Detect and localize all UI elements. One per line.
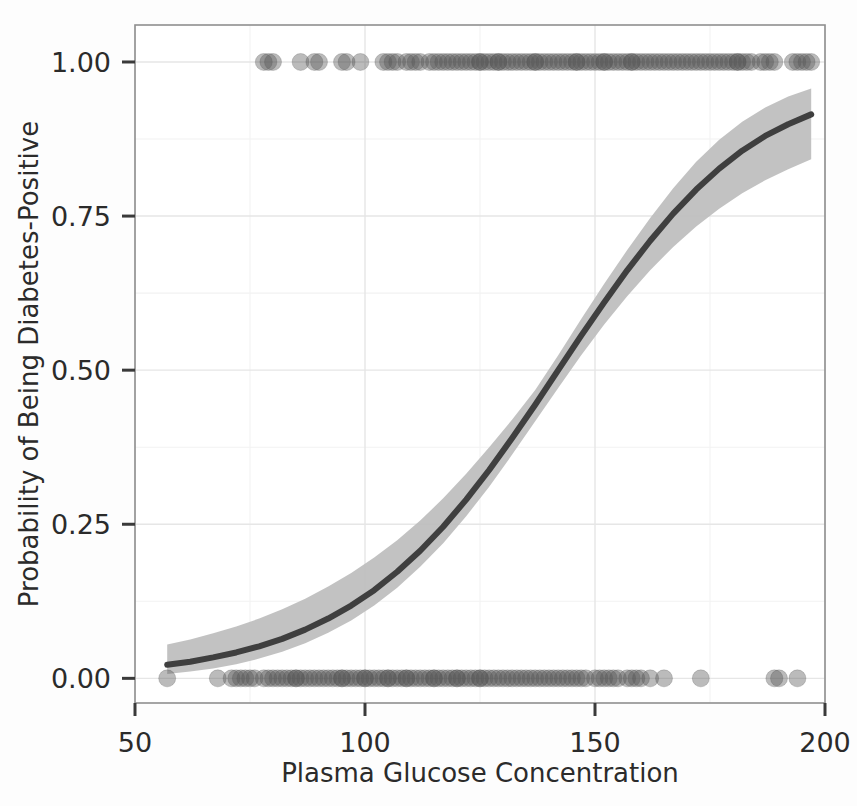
scatter-points-outcome-one bbox=[255, 53, 819, 70]
x-tick-label: 100 bbox=[339, 727, 391, 758]
x-axis-title: Plasma Glucose Concentration bbox=[281, 758, 679, 788]
logistic-regression-plot: 50100150200 0.000.250.500.751.00 Plasma … bbox=[0, 0, 857, 806]
y-tick-label: 0.50 bbox=[51, 355, 111, 386]
scatter-point bbox=[159, 670, 176, 687]
scatter-point bbox=[803, 53, 820, 70]
scatter-point bbox=[311, 53, 328, 70]
y-tick-label: 0.25 bbox=[51, 509, 111, 540]
scatter-point bbox=[265, 53, 282, 70]
chart-figure: 50100150200 0.000.250.500.751.00 Plasma … bbox=[0, 0, 857, 806]
scatter-point bbox=[789, 670, 806, 687]
x-tick-label: 50 bbox=[118, 727, 152, 758]
y-tick-label: 0.00 bbox=[51, 663, 111, 694]
x-tick-label: 200 bbox=[799, 727, 851, 758]
scatter-point bbox=[656, 670, 673, 687]
scatter-point bbox=[352, 53, 369, 70]
y-tick-label: 1.00 bbox=[51, 47, 111, 78]
scatter-point bbox=[771, 670, 788, 687]
y-axis-title: Probability of Being Diabetes-Positive bbox=[14, 121, 44, 607]
y-tick-label: 0.75 bbox=[51, 201, 111, 232]
x-tick-label: 150 bbox=[569, 727, 621, 758]
scatter-point bbox=[692, 670, 709, 687]
scatter-point bbox=[766, 53, 783, 70]
